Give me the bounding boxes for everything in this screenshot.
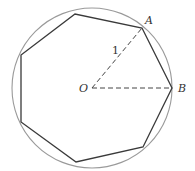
label-O: O: [79, 82, 88, 95]
label-B: B: [177, 82, 186, 95]
heptagon-diagram: A B O 1: [0, 0, 195, 171]
radius-length-label: 1: [112, 44, 119, 57]
label-A: A: [144, 14, 153, 27]
radius-OA: [92, 28, 142, 88]
